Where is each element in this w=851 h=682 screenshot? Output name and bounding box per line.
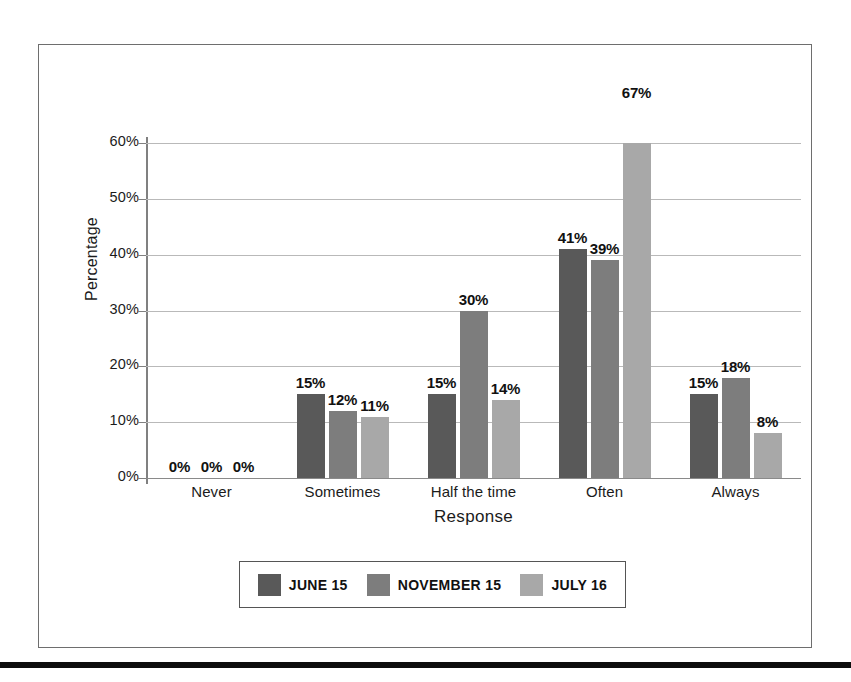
bar-group-inner: 41%39%67% (539, 143, 670, 478)
y-tick-mark (138, 311, 146, 312)
y-axis-label-10%: 10% (109, 412, 139, 428)
page-bottom-rule (0, 662, 851, 668)
legend-label: NOVEMBER 15 (398, 577, 502, 593)
bar-group: 41%39%67%Often (539, 143, 670, 478)
bar-group: 15%30%14%Half the time (408, 143, 539, 478)
bar-value-label: 15% (427, 374, 456, 391)
bar-slot: 18% (722, 143, 750, 478)
bar-slot: 39% (591, 143, 619, 478)
bar-value-label: 15% (689, 374, 718, 391)
bar-value-label: 8% (757, 413, 778, 430)
bar-value-label: 39% (590, 240, 619, 257)
legend-label: JUNE 15 (289, 577, 348, 593)
legend-swatch-icon (520, 574, 543, 596)
y-tick-mark (138, 478, 146, 479)
legend-label: JULY 16 (551, 577, 607, 593)
gridline-0% (146, 478, 801, 479)
bar[interactable] (754, 433, 782, 478)
bar-value-label: 18% (721, 358, 750, 375)
legend-swatch-icon (367, 574, 390, 596)
x-axis-category-label: Often (539, 483, 670, 500)
legend-item[interactable]: NOVEMBER 15 (367, 574, 502, 596)
y-axis-label-50%: 50% (109, 189, 139, 205)
bar-value-label: 0% (201, 458, 222, 475)
y-tick-mark (138, 143, 146, 144)
bar[interactable] (623, 143, 651, 478)
bar-value-label: 67% (622, 84, 651, 101)
bar-slot: 0% (166, 143, 194, 478)
y-axis-label-60%: 60% (109, 133, 139, 149)
y-axis-tick-labels: 0%10%20%30%40%50%60% (79, 143, 139, 478)
bar[interactable] (361, 417, 389, 478)
bar-group-inner: 15%30%14% (408, 143, 539, 478)
x-axis-category-label: Half the time (408, 483, 539, 500)
x-axis-category-label: Never (146, 483, 277, 500)
bar-slot: 12% (329, 143, 357, 478)
legend-item[interactable]: JULY 16 (520, 574, 607, 596)
bar-slot: 15% (690, 143, 718, 478)
bar-group-inner: 15%12%11% (277, 143, 408, 478)
bar[interactable] (460, 311, 488, 479)
bar[interactable] (329, 411, 357, 478)
bar[interactable] (428, 394, 456, 478)
bar[interactable] (297, 394, 325, 478)
x-axis-category-label: Sometimes (277, 483, 408, 500)
y-tick-mark (138, 199, 146, 200)
y-axis-label-40%: 40% (109, 245, 139, 261)
bar-group-inner: 15%18%8% (670, 143, 801, 478)
bar-value-label: 12% (328, 391, 357, 408)
bar-value-label: 0% (169, 458, 190, 475)
bar-slot: 14% (492, 143, 520, 478)
bar[interactable] (492, 400, 520, 478)
x-axis-category-label: Always (670, 483, 801, 500)
bar-value-label: 14% (491, 380, 520, 397)
bar-slot: 15% (297, 143, 325, 478)
plot-area: 0%0%0%Never15%12%11%Sometimes15%30%14%Ha… (146, 143, 801, 478)
bar[interactable] (722, 378, 750, 479)
chart-legend: JUNE 15NOVEMBER 15JULY 16 (239, 561, 626, 608)
bar-slot: 15% (428, 143, 456, 478)
y-tick-mark (138, 255, 146, 256)
bar-slot: 8% (754, 143, 782, 478)
bar-group: 0%0%0%Never (146, 143, 277, 478)
bar-slot: 0% (230, 143, 258, 478)
legend-item[interactable]: JUNE 15 (258, 574, 348, 596)
bar-chart: Percentage 0%10%20%30%40%50%60% 0%0%0%Ne… (39, 45, 813, 649)
figure-frame: Percentage 0%10%20%30%40%50%60% 0%0%0%Ne… (38, 44, 812, 648)
y-axis-label-30%: 30% (109, 301, 139, 317)
y-axis-label-0%: 0% (118, 468, 139, 484)
bar-value-label: 30% (459, 291, 488, 308)
bar-slot: 30% (460, 143, 488, 478)
bar-value-label: 11% (360, 397, 389, 414)
bar-slot: 0% (198, 143, 226, 478)
bar-group: 15%12%11%Sometimes (277, 143, 408, 478)
y-tick-mark (138, 422, 146, 423)
bar[interactable] (690, 394, 718, 478)
bar-slot: 11% (361, 143, 389, 478)
bar-value-label: 15% (296, 374, 325, 391)
bar-value-label: 41% (558, 229, 587, 246)
legend-swatch-icon (258, 574, 281, 596)
bar[interactable] (559, 249, 587, 478)
bar-slot: 41% (559, 143, 587, 478)
bar-group-inner: 0%0%0% (146, 143, 277, 478)
bar[interactable] (591, 260, 619, 478)
x-axis-title: Response (146, 507, 801, 527)
bar-slot: 67% (623, 143, 651, 478)
bar-group: 15%18%8%Always (670, 143, 801, 478)
y-tick-mark (138, 366, 146, 367)
bar-value-label: 0% (233, 458, 254, 475)
y-axis-label-20%: 20% (109, 356, 139, 372)
